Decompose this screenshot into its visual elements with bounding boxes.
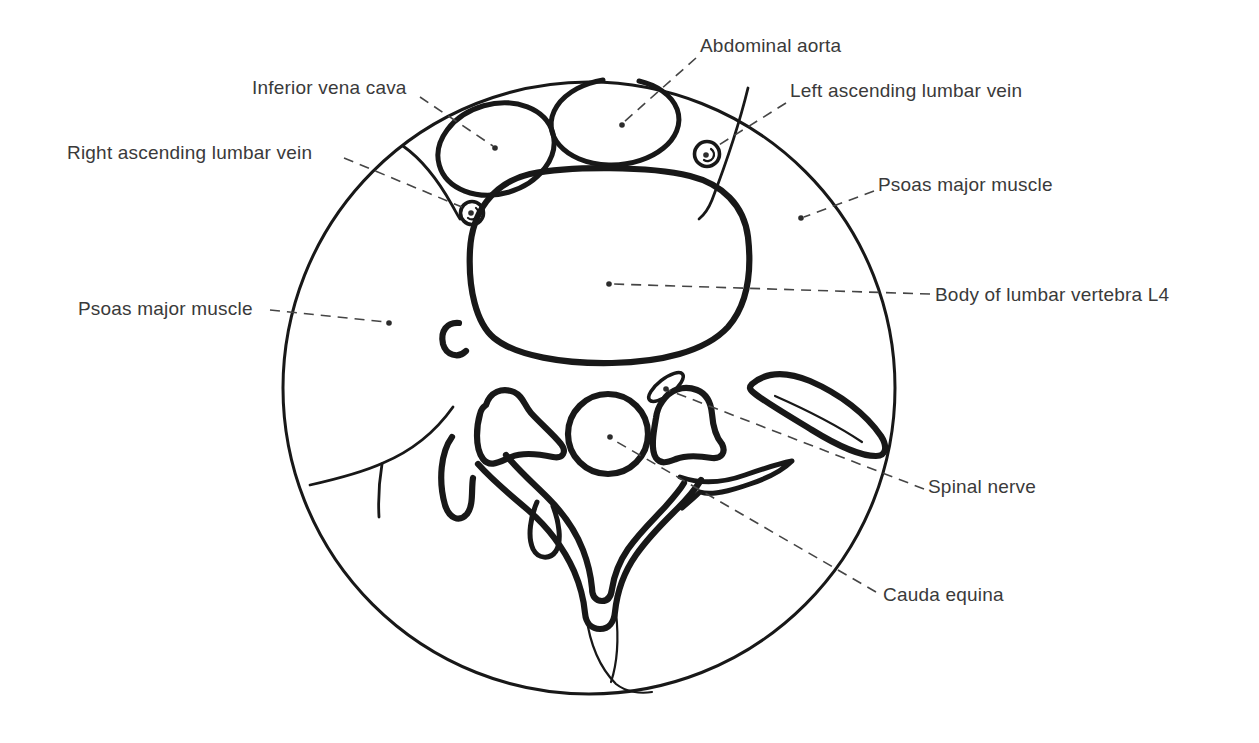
leader-dot-abdominal-aorta [619, 122, 625, 128]
leader-dot-left-ascending-lumbar-vein [703, 152, 709, 158]
leader-lines [270, 58, 930, 592]
label-psoas-major-muscle-left: Psoas major muscle [78, 299, 253, 319]
leader-dot-right-ascending-lumbar-vein [468, 210, 474, 216]
label-cauda-equina: Cauda equina [883, 585, 1004, 605]
leader-dot-psoas-major-muscle-left [386, 320, 392, 326]
leader-dot-spinal-nerve [663, 386, 669, 392]
label-psoas-major-muscle-right: Psoas major muscle [878, 175, 1053, 195]
leader-dot-cauda-equina [607, 434, 613, 440]
leader-dot-psoas-major-muscle-right [798, 215, 804, 221]
label-body-of-lumbar-vertebra-l4: Body of lumbar vertebra L4 [935, 285, 1169, 305]
left-transverse-hook-lower [441, 437, 473, 519]
section-outline-circle [283, 82, 895, 694]
leader-dot-body-of-lumbar-vertebra-l4 [606, 281, 612, 287]
label-abdominal-aorta: Abdominal aorta [700, 36, 841, 56]
anatomy-drawing [0, 0, 1259, 743]
abdominal-aorta-outline [551, 80, 679, 165]
label-inferior-vena-cava: Inferior vena cava [252, 78, 407, 98]
label-right-ascending-lumbar-vein: Right ascending lumbar vein [67, 143, 312, 163]
leader-dot-inferior-vena-cava [492, 145, 498, 151]
anatomy-diagram: Abdominal aortaInferior vena cavaLeft as… [0, 0, 1259, 743]
leader-line-psoas-major-muscle-left [270, 310, 386, 322]
label-left-ascending-lumbar-vein: Left ascending lumbar vein [790, 81, 1022, 101]
left-articular-process [477, 390, 564, 464]
left-transverse-hook-upper [442, 323, 466, 355]
leader-line-body-of-lumbar-vertebra-l4 [612, 284, 930, 294]
label-spinal-nerve: Spinal nerve [928, 477, 1036, 497]
vertebral-arch-outer [478, 464, 701, 629]
leader-line-left-ascending-lumbar-vein [714, 103, 786, 148]
psoas-boundary-branch-left [379, 464, 382, 517]
vertebral-body-outline [470, 168, 750, 363]
cauda-equina-outline [568, 394, 648, 474]
